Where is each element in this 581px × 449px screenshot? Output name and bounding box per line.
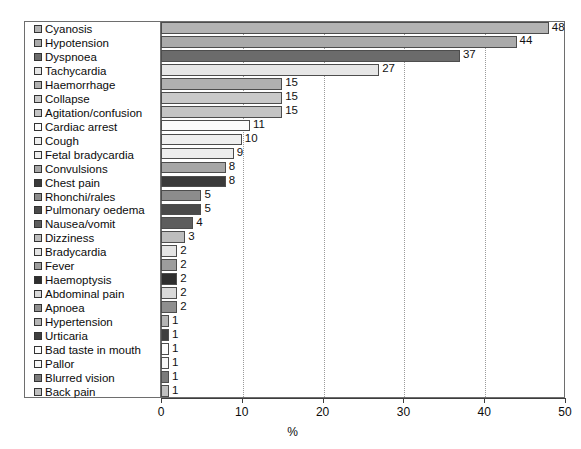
legend-item[interactable]: Dizziness [34,231,94,245]
legend-item[interactable]: Blurred vision [34,371,115,385]
legend-item-label: Fever [45,260,74,272]
legend-item-label: Tachycardia [45,65,106,77]
bar-row[interactable]: 5 [161,203,565,217]
legend-item[interactable]: Cardiac arrest [34,120,117,134]
bar[interactable] [161,78,282,90]
bar-row[interactable]: 4 [161,216,565,230]
legend-item-label: Abdominal pain [45,288,124,300]
bar-row[interactable]: 44 [161,35,565,49]
bar[interactable] [161,287,177,299]
bar[interactable] [161,343,169,355]
bar-value-label: 5 [204,187,210,201]
legend-swatch-icon [34,67,42,75]
legend-item-label: Apnoea [45,302,85,314]
bar[interactable] [161,190,201,202]
bar-row[interactable]: 15 [161,91,565,105]
bar[interactable] [161,162,226,174]
legend-item-label: Chest pain [45,177,100,189]
bar-row[interactable]: 11 [161,119,565,133]
legend-swatch-icon [34,25,42,33]
legend-item-label: Bradycardia [45,246,106,258]
legend-swatch-icon [34,123,42,131]
legend-item[interactable]: Tachycardia [34,64,106,78]
bar[interactable] [161,50,460,62]
legend-swatch-icon [34,220,42,228]
legend-item[interactable]: Fever [34,259,74,273]
bar[interactable] [161,245,177,257]
bar[interactable] [161,22,549,34]
legend-item-label: Nausea/vomit [45,218,115,230]
bar[interactable] [161,273,177,285]
legend-item[interactable]: Convulsions [34,162,108,176]
x-axis-line [161,398,565,399]
x-axis-title: % [0,425,581,439]
legend-item[interactable]: Apnoea [34,301,85,315]
bar[interactable] [161,120,250,132]
legend-item[interactable]: Back pain [34,385,96,399]
legend-item[interactable]: Haemorrhage [34,78,115,92]
bar[interactable] [161,204,201,216]
bar-row[interactable]: 15 [161,77,565,91]
bar-row[interactable]: 15 [161,105,565,119]
legend-item[interactable]: Rhonchi/rales [34,190,115,204]
legend-item[interactable]: Bad taste in mouth [34,343,141,357]
legend-item[interactable]: Bradycardia [34,245,106,259]
bar[interactable] [161,148,234,160]
legend-item[interactable]: Cyanosis [34,22,92,36]
bar-row[interactable]: 5 [161,189,565,203]
bar-row[interactable]: 1 [161,314,565,328]
legend-item[interactable]: Fetal bradycardia [34,148,134,162]
legend-swatch-icon [34,234,42,242]
bar-row[interactable]: 8 [161,175,565,189]
legend-item[interactable]: Hypertension [34,315,113,329]
bar-row[interactable]: 2 [161,286,565,300]
bar[interactable] [161,217,193,229]
legend-swatch-icon [34,360,42,368]
legend-item[interactable]: Pulmonary oedema [34,204,145,218]
bar-row[interactable]: 1 [161,384,565,398]
bar-row[interactable]: 2 [161,272,565,286]
bar-row[interactable]: 9 [161,147,565,161]
legend-item[interactable]: Agitation/confusion [34,106,142,120]
legend-item[interactable]: Nausea/vomit [34,217,115,231]
bar[interactable] [161,371,169,383]
bar-row[interactable]: 1 [161,370,565,384]
legend-item[interactable]: Dyspnoea [34,50,97,64]
legend-item[interactable]: Collapse [34,92,90,106]
legend-swatch-icon [34,276,42,284]
bar-row[interactable]: 8 [161,161,565,175]
bar-row[interactable]: 1 [161,328,565,342]
bar[interactable] [161,64,379,76]
bar[interactable] [161,36,517,48]
bar-row[interactable]: 1 [161,356,565,370]
legend-item[interactable]: Abdominal pain [34,287,124,301]
legend-item[interactable]: Haemoptysis [34,273,111,287]
bar[interactable] [161,176,226,188]
bar-row[interactable]: 2 [161,244,565,258]
legend-swatch-icon [34,388,42,396]
bar[interactable] [161,301,177,313]
bar[interactable] [161,92,282,104]
bar[interactable] [161,315,169,327]
bar-row[interactable]: 1 [161,342,565,356]
legend-item[interactable]: Hypotension [34,36,109,50]
bar-row[interactable]: 37 [161,49,565,63]
bar-row[interactable]: 10 [161,133,565,147]
bar-row[interactable]: 27 [161,63,565,77]
bar-row[interactable]: 3 [161,230,565,244]
legend-item[interactable]: Chest pain [34,176,100,190]
bar[interactable] [161,259,177,271]
legend-item[interactable]: Urticaria [34,329,88,343]
legend-item[interactable]: Pallor [34,357,74,371]
bar-row[interactable]: 2 [161,300,565,314]
bar-row[interactable]: 2 [161,258,565,272]
legend-item-label: Hypotension [45,37,109,49]
bar[interactable] [161,329,169,341]
bar[interactable] [161,231,185,243]
bar[interactable] [161,134,242,146]
bar[interactable] [161,357,169,369]
bar-row[interactable]: 48 [161,21,565,35]
bar[interactable] [161,385,169,397]
legend-item[interactable]: Cough [34,134,79,148]
bar[interactable] [161,106,282,118]
